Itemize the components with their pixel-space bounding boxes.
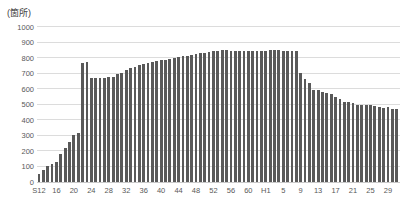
bar xyxy=(277,50,280,182)
bar xyxy=(125,70,128,182)
bar xyxy=(59,154,62,182)
bar xyxy=(142,64,145,182)
x-tick-label: 40 xyxy=(157,186,165,195)
bar xyxy=(160,60,163,182)
bar xyxy=(164,60,167,182)
x-tick-label: 28 xyxy=(105,186,113,195)
bar xyxy=(369,105,372,182)
bar xyxy=(120,73,123,182)
bar xyxy=(195,54,198,182)
bar xyxy=(234,51,237,182)
bar xyxy=(356,105,359,182)
y-tick-label: 1000 xyxy=(8,23,34,32)
gridline-0 xyxy=(37,182,400,183)
bar xyxy=(77,133,80,182)
bar xyxy=(343,102,346,182)
bar xyxy=(347,102,350,182)
x-tick-label: 20 xyxy=(70,186,78,195)
bar xyxy=(107,77,110,182)
x-tick-label: H1 xyxy=(261,186,271,195)
bar xyxy=(238,51,241,182)
bar xyxy=(339,99,342,182)
bar xyxy=(256,51,259,182)
y-tick-label: 0 xyxy=(8,178,34,187)
bar-chart: (箇所) 01002003004005006007008009001000 S1… xyxy=(0,0,413,211)
x-tick-label: 9 xyxy=(299,186,303,195)
bar xyxy=(72,135,75,182)
bar xyxy=(51,164,54,182)
x-tick-label: 44 xyxy=(174,186,182,195)
x-tick-label: S12 xyxy=(32,186,45,195)
x-tick-label: 36 xyxy=(139,186,147,195)
bar xyxy=(352,103,355,182)
bar xyxy=(360,105,363,182)
bar xyxy=(312,90,315,182)
x-tick-label: 5 xyxy=(281,186,285,195)
bar xyxy=(134,67,137,182)
bar xyxy=(260,51,263,182)
bar xyxy=(129,68,132,182)
bar xyxy=(264,51,267,182)
bar xyxy=(273,50,276,182)
bar xyxy=(94,78,97,182)
bar xyxy=(112,77,115,182)
bar xyxy=(225,50,228,182)
x-tick-label: 16 xyxy=(52,186,60,195)
bar xyxy=(38,174,41,182)
y-tick-label: 600 xyxy=(8,85,34,94)
bar xyxy=(373,106,376,182)
bar xyxy=(46,166,49,182)
bar xyxy=(155,61,158,182)
bar xyxy=(212,51,215,182)
bar xyxy=(68,142,71,182)
bar xyxy=(365,105,368,182)
bar xyxy=(151,62,154,182)
bar xyxy=(173,58,176,182)
y-tick-label: 200 xyxy=(8,147,34,156)
x-tick-label: 60 xyxy=(244,186,252,195)
bar xyxy=(190,55,193,182)
x-tick-label: 13 xyxy=(314,186,322,195)
bar xyxy=(203,53,206,182)
gridline-900 xyxy=(37,42,400,43)
bar xyxy=(116,74,119,182)
bar xyxy=(247,51,250,182)
bar xyxy=(251,51,254,182)
bar xyxy=(81,63,84,182)
x-tick-label: 21 xyxy=(349,186,357,195)
bar xyxy=(291,51,294,182)
bar xyxy=(391,109,394,182)
bar xyxy=(243,51,246,182)
bar xyxy=(321,92,324,182)
bar xyxy=(221,50,224,182)
bar xyxy=(304,79,307,182)
y-tick-label: 900 xyxy=(8,38,34,47)
x-tick-label: 29 xyxy=(384,186,392,195)
bar xyxy=(55,162,58,182)
y-tick-label: 100 xyxy=(8,162,34,171)
bar xyxy=(216,51,219,182)
x-tick-label: 25 xyxy=(366,186,374,195)
bar xyxy=(168,59,171,182)
bar xyxy=(64,148,67,182)
bar xyxy=(334,97,337,182)
bar xyxy=(182,56,185,182)
y-tick-label: 400 xyxy=(8,116,34,125)
bar xyxy=(90,78,93,182)
bar xyxy=(325,93,328,182)
bar xyxy=(395,109,398,182)
x-tick-label: 48 xyxy=(192,186,200,195)
bar xyxy=(138,65,141,182)
x-tick-label: 52 xyxy=(209,186,217,195)
bar xyxy=(99,78,102,182)
bar xyxy=(317,90,320,182)
gridline-1000 xyxy=(37,26,400,27)
plot-area xyxy=(37,27,400,182)
bar xyxy=(186,56,189,182)
bar xyxy=(282,51,285,182)
bar xyxy=(286,51,289,182)
bar xyxy=(378,107,381,182)
bar xyxy=(208,52,211,182)
bar xyxy=(387,107,390,182)
y-tick-label: 700 xyxy=(8,69,34,78)
